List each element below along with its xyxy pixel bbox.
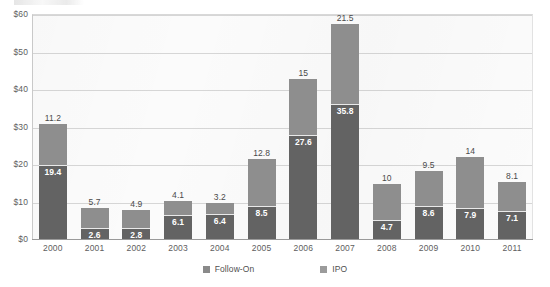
y-axis-tick-20: $20 [0, 159, 28, 169]
bar-group-2008[interactable]: 4.710 [373, 184, 401, 239]
bar-group-2004[interactable]: 6.43.2 [206, 203, 234, 239]
bar-segment-follow-on-2010[interactable] [456, 157, 484, 210]
bar-segment-ipo-2011[interactable]: 7.1 [498, 212, 526, 239]
bar-value-follow-on-2004: 3.2 [198, 192, 242, 202]
bar-value-follow-on-2005: 12.8 [240, 148, 284, 158]
bar-value-follow-on-2008: 10 [365, 173, 409, 183]
bar-group-2010[interactable]: 7.914 [456, 157, 484, 239]
bar-segment-follow-on-2008[interactable] [373, 184, 401, 222]
bar-segment-ipo-2005[interactable]: 8.5 [248, 207, 276, 239]
bar-group-2005[interactable]: 8.512.8 [248, 159, 276, 239]
bar-segment-follow-on-2003[interactable] [164, 201, 192, 216]
bar-value-follow-on-2010: 14 [448, 146, 492, 156]
bar-segment-follow-on-2007[interactable] [331, 24, 359, 105]
bar-segment-ipo-2000[interactable]: 19.4 [39, 166, 67, 239]
bar-segment-follow-on-2005[interactable] [248, 159, 276, 207]
bar-group-2000[interactable]: 19.411.2 [39, 124, 67, 239]
bar-value-ipo-2008: 4.7 [373, 222, 401, 232]
bar-value-follow-on-2000: 11.2 [31, 113, 75, 123]
x-axis-tick-2006: 2006 [283, 243, 323, 253]
legend-item-follow-on[interactable]: Follow-On [203, 264, 255, 274]
bar-segment-ipo-2004[interactable]: 6.4 [206, 215, 234, 239]
y-axis-tick-60: $60 [0, 9, 28, 19]
bar-value-follow-on-2009: 9.5 [407, 160, 451, 170]
bar-group-2003[interactable]: 6.14.1 [164, 201, 192, 239]
gridline-40 [33, 90, 532, 91]
bar-value-follow-on-2001: 5.7 [73, 197, 117, 207]
x-axis-tick-2004: 2004 [200, 243, 240, 253]
bar-segment-follow-on-2009[interactable] [415, 171, 443, 207]
bar-segment-ipo-2009[interactable]: 8.6 [415, 207, 443, 239]
bar-value-ipo-2002: 2.8 [122, 230, 150, 240]
x-axis-tick-2008: 2008 [367, 243, 407, 253]
y-axis-tick-30: $30 [0, 122, 28, 132]
bar-segment-ipo-2006[interactable]: 27.6 [289, 136, 317, 240]
bar-group-2011[interactable]: 7.18.1 [498, 182, 526, 239]
bar-value-follow-on-2011: 8.1 [490, 171, 534, 181]
bar-segment-follow-on-2006[interactable] [289, 79, 317, 135]
bar-group-2006[interactable]: 27.615 [289, 79, 317, 239]
bar-value-ipo-2001: 2.6 [81, 230, 109, 240]
legend-label-ipo: IPO [332, 264, 347, 274]
x-axis-tick-2005: 2005 [242, 243, 282, 253]
chart-legend: Follow-On IPO [0, 264, 550, 274]
bar-value-ipo-2011: 7.1 [498, 213, 526, 223]
bar-segment-follow-on-2001[interactable] [81, 208, 109, 229]
follow-on-swatch-icon [203, 266, 210, 273]
bar-group-2009[interactable]: 8.69.5 [415, 171, 443, 239]
gridline-30 [33, 128, 532, 129]
bar-value-ipo-2006: 27.6 [289, 137, 317, 147]
bar-value-follow-on-2003: 4.1 [156, 190, 200, 200]
gridline-60 [33, 15, 532, 16]
bar-value-ipo-2004: 6.4 [206, 216, 234, 226]
bar-value-follow-on-2006: 15 [281, 68, 325, 78]
legend-label-follow-on: Follow-On [215, 264, 255, 274]
gridline-50 [33, 53, 532, 54]
bar-segment-follow-on-2011[interactable] [498, 182, 526, 212]
ipo-swatch-icon [320, 266, 327, 273]
bar-segment-ipo-2001[interactable]: 2.6 [81, 229, 109, 239]
y-axis-tick-40: $40 [0, 84, 28, 94]
x-axis-tick-2009: 2009 [409, 243, 449, 253]
x-axis-tick-2003: 2003 [158, 243, 198, 253]
x-axis-tick-2011: 2011 [492, 243, 532, 253]
cropped-header-remnant [14, 0, 84, 5]
bar-group-2001[interactable]: 2.65.7 [81, 208, 109, 239]
bar-segment-ipo-2007[interactable]: 35.8 [331, 105, 359, 239]
bar-value-ipo-2000: 19.4 [39, 167, 67, 177]
bar-value-follow-on-2002: 4.9 [114, 199, 158, 209]
bar-segment-ipo-2003[interactable]: 6.1 [164, 216, 192, 239]
x-axis-tick-2000: 2000 [33, 243, 73, 253]
legend-item-ipo[interactable]: IPO [320, 264, 347, 274]
x-axis-tick-2010: 2010 [450, 243, 490, 253]
bar-value-ipo-2007: 35.8 [331, 106, 359, 116]
bar-segment-ipo-2010[interactable]: 7.9 [456, 209, 484, 239]
bar-segment-follow-on-2002[interactable] [122, 210, 150, 228]
bar-value-follow-on-2007: 21.5 [323, 13, 367, 23]
bar-value-ipo-2010: 7.9 [456, 210, 484, 220]
y-axis-tick-50: $50 [0, 47, 28, 57]
bar-group-2002[interactable]: 2.84.9 [122, 210, 150, 239]
bar-segment-ipo-2002[interactable]: 2.8 [122, 229, 150, 240]
bar-segment-follow-on-2004[interactable] [206, 203, 234, 215]
bar-group-2007[interactable]: 35.821.5 [331, 24, 359, 239]
x-axis-tick-2002: 2002 [116, 243, 156, 253]
bar-value-ipo-2005: 8.5 [248, 208, 276, 218]
bar-segment-ipo-2008[interactable]: 4.7 [373, 221, 401, 239]
bar-value-ipo-2003: 6.1 [164, 217, 192, 227]
x-axis-tick-2007: 2007 [325, 243, 365, 253]
bar-segment-follow-on-2000[interactable] [39, 124, 67, 166]
x-axis-tick-2001: 2001 [75, 243, 115, 253]
stacked-bar-chart: $0$10$20$30$40$50$60 19.411.22.65.72.84.… [0, 0, 550, 287]
bar-value-ipo-2009: 8.6 [415, 208, 443, 218]
y-axis-tick-10: $10 [0, 197, 28, 207]
y-axis-tick-0: $0 [0, 234, 28, 244]
